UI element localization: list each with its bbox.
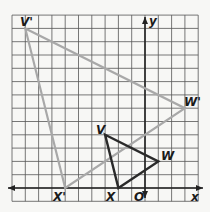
coordinate-plane: V' W' X' V W X O y x xyxy=(0,0,210,212)
label-x-axis: x xyxy=(190,190,200,204)
label-x-prime: X' xyxy=(52,190,66,204)
grid xyxy=(12,15,198,201)
label-w: W xyxy=(161,149,175,163)
arrow-up-icon xyxy=(142,17,148,24)
label-v-prime: V' xyxy=(20,15,33,29)
label-origin: O xyxy=(134,190,144,204)
arrow-left-icon xyxy=(8,185,15,191)
label-x: X xyxy=(105,190,116,204)
label-y-axis: y xyxy=(149,14,158,28)
label-w-prime: W' xyxy=(184,95,201,109)
